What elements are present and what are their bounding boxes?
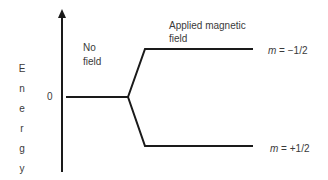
energy-letter: y (17, 159, 27, 179)
upper-split-level (128, 49, 253, 97)
no-field-label-line2: field (83, 56, 101, 68)
applied-field-label-line1: Applied magnetic (169, 20, 246, 32)
axis-arrow-icon (58, 9, 66, 18)
zero-tick-label: 0 (47, 91, 53, 103)
energy-letter: E (17, 59, 27, 79)
lower-split-level (128, 97, 253, 146)
m-value: = +1/2 (278, 143, 309, 154)
no-field-label-line1: No (83, 42, 96, 54)
lower-level-label: m = +1/2 (270, 143, 309, 155)
upper-level-label: m = −1/2 (268, 45, 307, 57)
m-value: = −1/2 (276, 45, 307, 56)
energy-axis-label: E n e r g y (17, 59, 27, 179)
energy-letter: r (17, 119, 27, 139)
energy-letter: g (17, 139, 27, 159)
energy-letter: e (17, 99, 27, 119)
energy-letter: n (17, 79, 27, 99)
applied-field-label-line2: field (169, 33, 187, 45)
